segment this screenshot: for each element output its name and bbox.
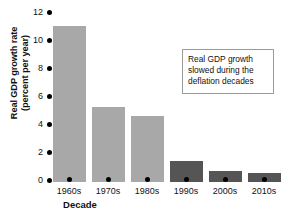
x-axis-label-1970s: 1970s xyxy=(88,186,128,196)
x-axis-tick-dot-icon xyxy=(106,177,111,182)
x-axis-label-2010s: 2010s xyxy=(244,186,283,196)
bar-1960s xyxy=(53,26,86,182)
y-axis-tick-dot-icon xyxy=(47,150,52,155)
y-axis-tick-0: 0 xyxy=(22,174,52,186)
x-axis-tick-dot-icon xyxy=(184,177,189,182)
x-axis-title: Decade xyxy=(50,199,110,210)
y-axis-tick-12: 12 xyxy=(22,6,52,18)
x-axis-label-1960s: 1960s xyxy=(49,186,89,196)
y-axis-tick-10: 10 xyxy=(22,34,52,46)
y-axis-title: Real GDP growth rate (percent per year) xyxy=(9,0,35,153)
x-axis-tick-dot-icon xyxy=(67,177,72,182)
x-axis-label-2000s: 2000s xyxy=(205,186,245,196)
y-axis-tick-label: 2 xyxy=(38,146,43,158)
plot-area xyxy=(53,10,277,182)
bar-1980s xyxy=(131,116,164,182)
y-axis-tick-label: 6 xyxy=(38,90,43,102)
annotation-line-1: Real GDP growth xyxy=(188,54,268,65)
x-axis-tick-dot-icon xyxy=(145,177,150,182)
y-axis-tick-dot-icon xyxy=(47,10,52,15)
y-axis-tick-label: 0 xyxy=(38,174,43,186)
y-axis-tick-dot-icon xyxy=(47,38,52,43)
y-axis-tick-dot-icon xyxy=(47,178,52,183)
y-axis-title-line-1: Real GDP growth rate xyxy=(9,0,20,153)
y-axis-tick-dot-icon xyxy=(47,122,52,127)
y-axis-tick-dot-icon xyxy=(47,66,52,71)
annotation-callout-box: Real GDP growth slowed during the deflat… xyxy=(182,49,274,94)
annotation-line-3: deflation decades xyxy=(188,76,268,87)
annotation-line-2: slowed during the xyxy=(188,65,268,76)
y-axis-tick-dot-icon xyxy=(47,94,52,99)
y-axis-tick-label: 8 xyxy=(38,62,43,74)
gdp-growth-bar-chart: Real GDP growth rate (percent per year) … xyxy=(0,0,283,223)
y-axis-tick-label: 12 xyxy=(33,6,43,18)
x-axis-label-1990s: 1990s xyxy=(166,186,206,196)
x-axis-tick-dot-icon xyxy=(262,177,267,182)
y-axis-tick-6: 6 xyxy=(22,90,52,102)
y-axis-tick-2: 2 xyxy=(22,146,52,158)
y-axis-tick-4: 4 xyxy=(22,118,52,130)
x-axis-tick-dot-icon xyxy=(223,177,228,182)
y-axis-title-line-2: (percent per year) xyxy=(20,0,31,153)
y-axis-tick-label: 4 xyxy=(38,118,43,130)
bar-1970s xyxy=(92,107,125,182)
x-axis-label-1980s: 1980s xyxy=(127,186,167,196)
y-axis-tick-label: 10 xyxy=(33,34,43,46)
y-axis-tick-8: 8 xyxy=(22,62,52,74)
